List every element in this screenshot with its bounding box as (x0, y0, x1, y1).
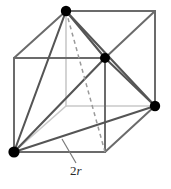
edge-bottom-right-diagonal (105, 106, 155, 152)
atom-bottom-front-left (8, 146, 19, 157)
unit-cell-figure: 2r (0, 0, 171, 189)
atom-top-back-left (61, 6, 71, 16)
edge-top-right-diagonal (105, 11, 155, 58)
tet-edge-top-to-bottomleft (14, 11, 66, 152)
atom-right (150, 101, 160, 111)
label-2r-radius-symbol: r (77, 163, 82, 178)
label-2r: 2r (70, 164, 82, 177)
tet-edge-facecenter-to-right (105, 58, 155, 106)
atom-face-center (100, 53, 110, 63)
unit-cell-diagram (0, 0, 171, 189)
